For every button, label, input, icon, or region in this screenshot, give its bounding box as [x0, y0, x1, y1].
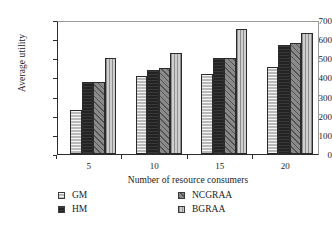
bar-hm-5: [82, 82, 94, 154]
legend-item-label: GM: [72, 190, 87, 200]
legend-swatch-icon: [58, 206, 65, 213]
bar-gm-20: [267, 67, 279, 154]
legend-swatch-icon: [178, 192, 185, 199]
x-axis-tick-label: 10: [134, 161, 174, 171]
x-axis-tick: [252, 155, 253, 159]
bar-gm-10: [136, 76, 148, 154]
plot-area: [57, 21, 319, 155]
x-axis-tick-label: 15: [200, 161, 240, 171]
chart-legend: GMHMNCGRAABGRAA: [0, 190, 332, 224]
x-axis-tick-label: 5: [69, 161, 109, 171]
bar-ncgraa-5: [93, 82, 105, 154]
legend-item-bgraa[interactable]: BGRAA: [178, 204, 225, 214]
bar-bgraa-15: [236, 29, 248, 154]
legend-item-label: BGRAA: [192, 204, 225, 214]
x-axis-title: Number of resource consumers: [57, 175, 319, 185]
legend-item-label: NCGRAA: [192, 190, 232, 200]
bar-chart-figure: Average utility 0100200300400500600700 5…: [0, 0, 332, 226]
legend-swatch-icon: [178, 206, 185, 213]
bar-hm-20: [278, 45, 290, 154]
y-axis-title: Average utility: [17, 8, 27, 118]
legend-item-hm[interactable]: HM: [58, 204, 87, 214]
bar-bgraa-10: [170, 53, 182, 154]
bar-gm-5: [70, 110, 82, 154]
legend-swatch-icon: [58, 192, 65, 199]
x-axis-tick-label: 20: [265, 161, 305, 171]
x-axis-tick: [121, 155, 122, 159]
bar-hm-10: [147, 70, 159, 154]
bar-ncgraa-20: [290, 43, 302, 154]
legend-item-ncgraa[interactable]: NCGRAA: [178, 190, 232, 200]
bars-layer: [58, 22, 318, 154]
bar-bgraa-20: [301, 33, 313, 154]
bar-ncgraa-15: [224, 58, 236, 154]
legend-item-label: HM: [72, 204, 87, 214]
x-axis-tick: [56, 155, 57, 159]
bar-bgraa-5: [105, 58, 117, 154]
bar-hm-15: [213, 58, 225, 154]
bar-ncgraa-10: [159, 68, 171, 154]
bar-gm-15: [201, 74, 213, 154]
legend-item-gm[interactable]: GM: [58, 190, 87, 200]
x-axis-tick: [187, 155, 188, 159]
